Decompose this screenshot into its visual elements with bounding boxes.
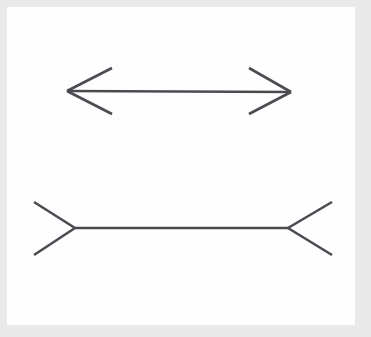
white-canvas — [7, 7, 355, 325]
illusion-svg — [0, 0, 371, 337]
illusion-figure-root — [0, 0, 371, 337]
top-shaft-line — [67, 91, 291, 92]
canvas-surface — [0, 0, 371, 337]
